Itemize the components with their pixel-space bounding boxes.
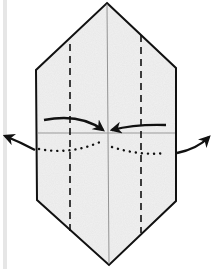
unfold-arrow-right bbox=[177, 137, 209, 153]
origami-diagram bbox=[0, 0, 213, 269]
unfold-arrow-left bbox=[5, 136, 35, 150]
paper-shape bbox=[36, 3, 176, 265]
